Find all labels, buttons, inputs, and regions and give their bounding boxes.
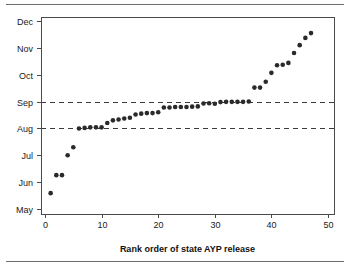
data-point — [246, 99, 251, 104]
y-tick-label-jun: Jun — [18, 178, 33, 188]
y-tick-label-dec: Dec — [17, 17, 34, 27]
y-tick-label-may: May — [16, 205, 34, 215]
data-point — [309, 31, 314, 36]
data-point — [224, 100, 229, 105]
x-tick-label-0: 0 — [43, 220, 48, 230]
x-axis-tick-labels: 01020304050 — [43, 220, 334, 230]
data-point — [105, 121, 110, 126]
plot-frame — [42, 18, 335, 215]
data-point — [88, 125, 93, 130]
y-tick-label-sep: Sep — [17, 98, 33, 108]
x-tick-label-20: 20 — [153, 220, 163, 230]
data-point — [139, 111, 144, 116]
x-axis-title: Rank order of state AYP release — [120, 244, 255, 254]
data-point — [167, 105, 172, 110]
data-point — [77, 126, 82, 131]
data-point — [280, 62, 285, 67]
data-point — [99, 125, 104, 130]
x-tick-label-10: 10 — [97, 220, 107, 230]
figure-container: MayJunJulAugSepOctNovDec 01020304050 Ran… — [0, 0, 350, 266]
data-point — [286, 61, 291, 66]
data-point — [275, 63, 280, 68]
scatter-plot: MayJunJulAugSepOctNovDec 01020304050 Ran… — [0, 0, 350, 266]
data-point — [213, 101, 218, 106]
data-point — [156, 110, 161, 115]
data-point — [184, 105, 189, 110]
data-point — [190, 104, 195, 109]
data-point — [252, 85, 257, 90]
data-point — [258, 85, 263, 90]
data-point — [269, 71, 274, 76]
axes-group — [42, 18, 335, 215]
data-point — [94, 125, 99, 130]
data-point — [111, 118, 116, 123]
data-point — [145, 111, 150, 116]
x-tick-label-50: 50 — [323, 220, 333, 230]
y-tick-label-oct: Oct — [19, 71, 34, 81]
data-point — [229, 100, 234, 105]
y-tick-label-jul: Jul — [21, 151, 33, 161]
data-point — [116, 117, 121, 122]
data-points-group — [48, 31, 313, 196]
y-tick-label-aug: Aug — [17, 124, 33, 134]
tick-marks-group — [37, 22, 329, 219]
x-tick-label-30: 30 — [210, 220, 220, 230]
data-point — [218, 100, 223, 105]
data-point — [150, 111, 155, 116]
y-axis-tick-labels: MayJunJulAugSepOctNovDec — [16, 17, 34, 215]
data-point — [54, 173, 59, 178]
data-point — [241, 100, 246, 105]
x-tick-label-40: 40 — [266, 220, 276, 230]
data-point — [263, 79, 268, 84]
data-point — [292, 51, 297, 56]
data-point — [71, 145, 76, 150]
data-point — [128, 115, 133, 120]
data-point — [207, 101, 212, 106]
data-point — [201, 101, 206, 106]
data-point — [48, 191, 53, 196]
data-point — [235, 100, 240, 105]
data-point — [196, 104, 201, 109]
data-point — [162, 105, 167, 110]
data-point — [122, 116, 127, 121]
data-point — [297, 43, 302, 48]
data-point — [303, 36, 308, 41]
y-tick-label-nov: Nov — [17, 44, 34, 54]
data-point — [179, 105, 184, 110]
data-point — [173, 105, 178, 110]
data-point — [65, 153, 70, 158]
data-point — [133, 112, 138, 117]
data-point — [60, 173, 65, 178]
data-point — [82, 126, 87, 131]
